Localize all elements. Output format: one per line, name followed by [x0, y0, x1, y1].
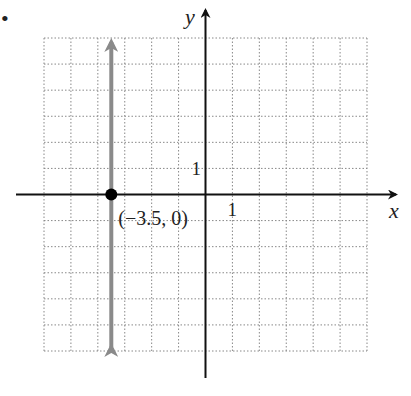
plotted-point	[105, 189, 117, 201]
y-tick-label-1: 1	[192, 158, 202, 179]
x-axis-label: x	[388, 198, 399, 223]
coordinate-plane: x y 1 1 (−3.5, 0)	[0, 0, 411, 396]
x-tick-label-1: 1	[227, 199, 237, 220]
y-axis-label: y	[183, 4, 195, 29]
point-label: (−3.5, 0)	[118, 207, 188, 230]
